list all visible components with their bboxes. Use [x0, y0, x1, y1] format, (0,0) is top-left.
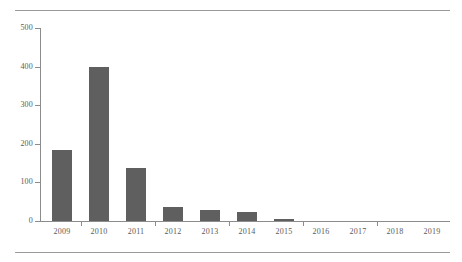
y-axis-tick: [35, 28, 40, 29]
y-axis-tick: [35, 221, 40, 222]
bar: [89, 67, 109, 221]
y-axis-tick: [35, 105, 40, 106]
x-axis-tick-label: 2017: [339, 228, 377, 236]
x-axis-tick-label: 2012: [154, 228, 192, 236]
x-axis-line: [40, 221, 450, 222]
x-axis-tick: [155, 221, 156, 226]
y-axis-tick-label: 300: [0, 101, 33, 109]
bar: [274, 219, 294, 221]
bar: [200, 210, 220, 221]
x-axis-tick-label: 2015: [265, 228, 303, 236]
x-axis-tick: [303, 221, 304, 226]
bar: [126, 168, 146, 221]
bar: [237, 212, 257, 221]
y-axis-tick: [35, 182, 40, 183]
x-axis-tick: [377, 221, 378, 226]
y-axis-tick-label: 200: [0, 140, 33, 148]
bar-chart-figure: 0100200300400500200920102011201220132014…: [0, 0, 462, 262]
x-axis-tick-label: 2014: [228, 228, 266, 236]
plot-area: 0100200300400500200920102011201220132014…: [0, 0, 462, 262]
y-axis-tick-label: 0: [0, 217, 33, 225]
x-axis-tick-label: 2016: [302, 228, 340, 236]
y-axis-tick-label: 500: [0, 24, 33, 32]
bar: [52, 150, 72, 221]
y-axis-line: [40, 28, 41, 221]
x-axis-tick-label: 2018: [376, 228, 414, 236]
bar: [163, 207, 183, 221]
y-axis-tick-label: 100: [0, 178, 33, 186]
y-axis-tick-label: 400: [0, 63, 33, 71]
x-axis-tick-label: 2009: [43, 228, 81, 236]
x-axis-tick-label: 2010: [80, 228, 118, 236]
x-axis-tick-label: 2013: [191, 228, 229, 236]
x-axis-tick-label: 2011: [117, 228, 155, 236]
y-axis-tick: [35, 144, 40, 145]
x-axis-tick: [229, 221, 230, 226]
x-axis-tick-label: 2019: [413, 228, 451, 236]
x-axis-tick: [81, 221, 82, 226]
y-axis-tick: [35, 67, 40, 68]
